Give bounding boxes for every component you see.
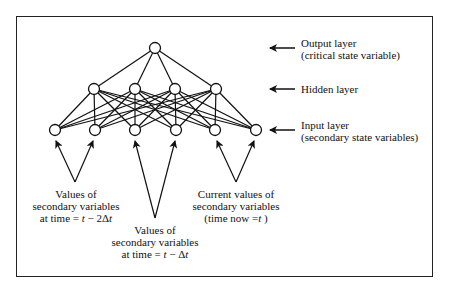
input-node <box>130 125 141 136</box>
hidden-layer-title: Hidden layer <box>301 83 358 95</box>
network-connections <box>55 48 256 130</box>
input-layer-subtitle: (secondary state variables) <box>301 131 418 143</box>
label-text: ) <box>261 212 267 224</box>
label-line: secondary variables <box>192 200 279 212</box>
hidden-node <box>89 84 100 95</box>
hidden-layer-label: Hidden layer <box>301 83 358 95</box>
output-layer-subtitle: (critical state variable) <box>301 49 400 61</box>
label-line: Current values of <box>192 188 279 200</box>
input-layer-title: Input layer <box>301 119 418 131</box>
label-line: secondary variables <box>111 236 198 248</box>
input-node <box>210 125 221 136</box>
input-node <box>171 125 182 136</box>
group-arrow <box>75 141 93 182</box>
label-line: Values of <box>111 224 198 236</box>
group-arrow <box>56 141 75 182</box>
label-text: − 2Δ <box>85 212 109 224</box>
group-arrow <box>236 141 254 182</box>
output-layer-label: Output layer (critical state variable) <box>301 37 400 61</box>
label-text: − Δ <box>167 248 186 260</box>
label-line: (time now =t ) <box>192 212 279 224</box>
connection-line <box>94 89 95 130</box>
label-text: at time = <box>40 212 82 224</box>
label-text: at time = <box>122 248 164 260</box>
input-node <box>90 125 101 136</box>
input-node <box>50 125 61 136</box>
input-layer-label: Input layer (secondary state variables) <box>301 119 418 143</box>
time-variable: t <box>109 212 112 224</box>
group-arrow <box>217 141 236 182</box>
label-line: at time = t − Δt <box>111 248 198 260</box>
group-arrow <box>155 141 175 218</box>
hidden-node <box>170 84 181 95</box>
label-t-now: Current values of secondary variables (t… <box>192 188 279 224</box>
connection-line <box>94 48 155 89</box>
group-arrow <box>135 141 155 218</box>
label-line: Values of <box>32 188 119 200</box>
hidden-node <box>130 84 141 95</box>
output-node <box>150 43 161 54</box>
label-line: at time = t − 2Δt <box>32 212 119 224</box>
label-line: secondary variables <box>32 200 119 212</box>
layer-pointer-arrows <box>270 48 295 130</box>
label-t-minus-2dt: Values of secondary variables at time = … <box>32 188 119 224</box>
output-layer-title: Output layer <box>301 37 400 49</box>
diagram-canvas: Output layer (critical state variable) H… <box>0 0 449 295</box>
label-text: (time now = <box>204 212 258 224</box>
connection-line <box>155 48 216 89</box>
time-variable: t <box>185 248 188 260</box>
label-t-minus-dt: Values of secondary variables at time = … <box>111 224 198 260</box>
input-node <box>251 125 262 136</box>
hidden-node <box>211 84 222 95</box>
